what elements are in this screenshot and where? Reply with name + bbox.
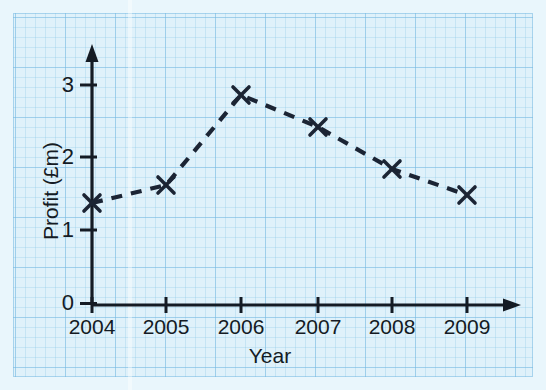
x-tick-label-2004: 2004 (52, 316, 132, 337)
data-point-markers (84, 87, 475, 211)
data-point-2007 (310, 119, 326, 135)
y-axis-title: Profit (£m) (40, 142, 61, 240)
x-axis-title: Year (200, 345, 340, 366)
chart-screenshot: 3 2 1 0 Profit (£m) 2004 2005 2006 2007 … (0, 0, 546, 390)
x-axis-arrow-icon (503, 299, 521, 312)
y-axis-arrow-icon (86, 44, 99, 62)
y-axis (86, 44, 99, 305)
x-axis (92, 299, 521, 312)
data-point-2006 (233, 87, 249, 103)
data-point-2009 (459, 187, 475, 203)
x-tick-label-2007: 2007 (278, 316, 358, 337)
x-tick-label-2006: 2006 (201, 316, 281, 337)
data-line-profit (92, 95, 467, 203)
x-tick-label-2005: 2005 (126, 316, 206, 337)
x-tick-label-2009: 2009 (427, 316, 507, 337)
y-tick-label-0: 0 (48, 292, 74, 314)
y-tick-label-3: 3 (48, 74, 74, 96)
x-tick-label-2008: 2008 (352, 316, 432, 337)
